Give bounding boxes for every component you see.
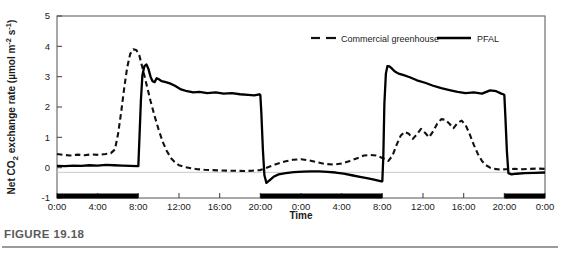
x-tick-label-1: 4:00 [88, 201, 107, 212]
chart-plot-area: -1012345 0:004:008:0012:0016:0020:000:00… [0, 0, 562, 222]
y-axis-title-pre: Net CO [6, 160, 17, 194]
x-tick-label-10: 16:00 [452, 201, 476, 212]
net-co2-exchange-rate-chart: -1012345 0:004:008:0012:0016:0020:000:00… [0, 0, 562, 222]
y-tick-label-0: 0 [45, 162, 50, 173]
x-tick-label-9: 12:00 [411, 201, 435, 212]
y-axis-title-post: ) [6, 20, 17, 23]
legend-label-commercial-greenhouse: Commercial greenhouse [341, 34, 439, 44]
legend-label-pfal: PFAL [477, 34, 499, 44]
caption-divider [2, 246, 558, 248]
x-tick-label-8: 8:00 [373, 201, 392, 212]
figure-caption-block: FIGURE 19.18 [0, 228, 562, 254]
y-tick-label-2: 2 [45, 101, 50, 112]
x-tick-label-11: 20:00 [492, 201, 516, 212]
x-tick-label-2: 8:00 [129, 201, 148, 212]
x-tick-label-0: 0:00 [48, 201, 67, 212]
svg-text:Net CO2 exchange rate (µmol m-: Net CO2 exchange rate (µmol m-2 s-1) [4, 20, 20, 195]
y-axis-title-sup2: -1 [4, 23, 13, 30]
y-tick-label-3: 3 [45, 71, 50, 82]
y-tick-label-4: 4 [45, 41, 50, 52]
y-axis-title: Net CO2 exchange rate (µmol m-2 s-1) [4, 20, 20, 195]
figure-caption-label: FIGURE 19.18 [4, 228, 84, 240]
x-tick-label-3: 12:00 [167, 201, 191, 212]
y-axis-title-mid: exchange rate (µmol m [6, 45, 17, 156]
y-axis-title-sup1: -2 [4, 38, 13, 45]
y-tick-label-5: 5 [45, 10, 50, 21]
x-axis-title: Time [289, 210, 313, 221]
dark-period-bar-1 [260, 194, 382, 199]
dark-period-bar-0 [57, 194, 138, 199]
x-tick-label-7: 4:00 [332, 201, 351, 212]
x-tick-label-12: 0:00 [536, 201, 555, 212]
x-tick-label-4: 16:00 [208, 201, 232, 212]
dark-period-bar-2 [504, 194, 545, 199]
figure-container: -1012345 0:004:008:0012:0016:0020:000:00… [0, 0, 562, 254]
y-tick-label-1: 1 [45, 132, 50, 143]
x-tick-label-5: 20:00 [248, 201, 272, 212]
